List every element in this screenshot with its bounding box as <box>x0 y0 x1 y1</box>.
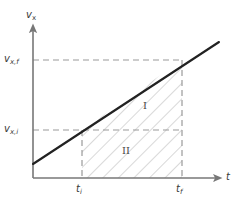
velocity-time-diagram: vx t vx,f vx,i ti tf I II <box>0 0 239 207</box>
y-tick-label-vxf: vx,f <box>4 54 19 64</box>
x-axis-label: t <box>226 172 230 182</box>
shaded-region-ii <box>82 130 182 178</box>
x-tick-label-ti: ti <box>76 184 82 194</box>
region-label-ii: II <box>122 146 130 156</box>
y-axis-label-sub: x <box>32 14 36 22</box>
x-tick-label-tf: tf <box>176 184 182 194</box>
y-tick-vxi-sub: x,i <box>10 128 18 136</box>
y-tick-vxf-sub: x,f <box>10 58 19 66</box>
x-axis-label-base: t <box>226 171 230 182</box>
region-label-i: I <box>143 101 147 111</box>
x-tick-ti-sub: i <box>80 188 82 196</box>
shaded-region-i <box>82 60 182 130</box>
y-axis-label: vx <box>26 10 36 20</box>
y-tick-label-vxi: vx,i <box>4 124 18 134</box>
diagram-canvas <box>0 0 239 207</box>
